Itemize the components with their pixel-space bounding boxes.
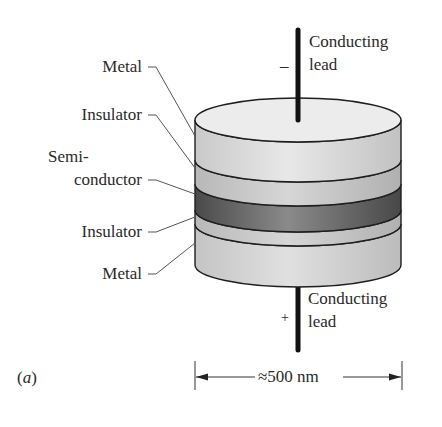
label-semiconductor-line2: conductor: [74, 171, 142, 189]
label-bottom-lead-line2: lead: [308, 313, 336, 331]
capacitor-diagram: [0, 0, 442, 427]
arrowhead-right-icon: [389, 374, 401, 381]
leader-line-semiconductor: [148, 180, 195, 194]
polarity-positive: +: [281, 309, 289, 327]
dimension-label: ≈500 nm: [258, 368, 319, 386]
label-bottom-lead-line1: Conducting: [308, 290, 387, 308]
leader-line-metal-bottom: [148, 243, 195, 274]
label-top-lead-line2: lead: [309, 56, 337, 74]
label-insulator-top: Insulator: [82, 106, 142, 124]
panel-letter: a: [23, 368, 32, 387]
panel-label: (a): [17, 369, 37, 387]
leader-line-metal-top: [148, 67, 195, 136]
leader-line-insulator-bottom: [148, 217, 195, 232]
label-metal-bottom: Metal: [102, 265, 142, 283]
polarity-negative: –: [280, 57, 289, 75]
label-top-lead-line1: Conducting: [309, 33, 388, 51]
label-insulator-bottom: Insulator: [82, 223, 142, 241]
arrowhead-left-icon: [196, 374, 208, 381]
label-semiconductor-line1: Semi-: [48, 148, 89, 166]
label-metal-top: Metal: [102, 58, 142, 76]
